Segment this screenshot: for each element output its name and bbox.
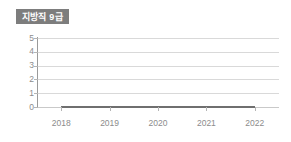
y-axis-tick-mark: [34, 107, 38, 108]
y-axis-tick-labels: 012345: [2, 0, 34, 142]
x-axis-tick-label: 2022: [235, 119, 275, 128]
gridline: [37, 79, 279, 80]
y-axis-tick-label: 0: [6, 103, 34, 112]
y-axis-tick-mark: [34, 79, 38, 80]
x-axis-tick-label: 2018: [41, 119, 81, 128]
gridline: [37, 66, 279, 67]
y-axis-tick-mark: [34, 66, 38, 67]
gridline: [37, 38, 279, 39]
x-axis-tick-mark: [61, 107, 62, 111]
x-axis-tick-mark: [110, 107, 111, 111]
x-axis-tick-label: 2020: [138, 119, 178, 128]
line-chart: 012345 20182019202020212022: [0, 0, 291, 142]
x-axis-tick-mark: [158, 107, 159, 111]
y-axis-tick-label: 3: [6, 61, 34, 70]
y-axis-tick-mark: [34, 38, 38, 39]
x-axis-tick-mark: [206, 107, 207, 111]
y-axis-tick-mark: [34, 93, 38, 94]
y-axis-tick-label: 4: [6, 47, 34, 56]
y-axis-line: [37, 37, 38, 108]
y-axis-tick-label: 2: [6, 75, 34, 84]
y-axis-tick-label: 1: [6, 89, 34, 98]
y-axis-tick-mark: [34, 52, 38, 53]
x-axis-tick-label: 2021: [186, 119, 226, 128]
plot-area: [37, 38, 279, 107]
x-axis-tick-mark: [255, 107, 256, 111]
chart-screenshot: 지방직 9급 012345 20182019202020212022: [0, 0, 291, 142]
y-axis-tick-label: 5: [6, 34, 34, 43]
x-axis-tick-label: 2019: [90, 119, 130, 128]
gridline: [37, 93, 279, 94]
gridline: [37, 52, 279, 53]
